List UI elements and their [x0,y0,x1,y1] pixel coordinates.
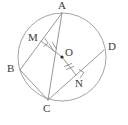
geometry-canvas [0,0,128,125]
center-point-o [60,55,63,58]
segment-om [41,41,62,57]
point-label-b: B [7,63,14,74]
geometry-figure: A B C D M N O [0,0,128,125]
point-label-c: C [43,103,50,114]
point-label-n: N [75,78,83,89]
tick-marks-om [50,43,57,52]
segment-on [62,57,76,75]
chord-ac [48,13,62,100]
point-label-m: M [28,32,38,43]
point-label-a: A [58,0,66,11]
chord-bc [20,70,48,100]
point-label-d: D [108,41,116,52]
point-label-o: O [65,47,73,58]
